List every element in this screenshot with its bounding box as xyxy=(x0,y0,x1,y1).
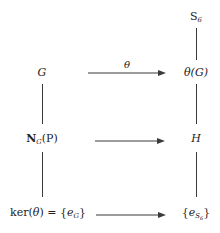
edge-h-to-identity xyxy=(196,152,197,197)
arrow-ng-p-to-h xyxy=(95,136,165,146)
node-trivial-subgroup-s6: {eS6} xyxy=(182,207,210,218)
node-normalizer-ng-p: NG(P) xyxy=(26,133,58,144)
node-symmetric-group-s6: S6 xyxy=(190,11,202,22)
node-label-ker: ker( xyxy=(10,206,33,219)
node-label-trivial-open: { xyxy=(182,206,189,219)
node-label-normalizer-paren-p: (P) xyxy=(42,132,58,145)
node-label-normalizer-subscript-g: G xyxy=(36,138,41,146)
arrow-kernel-to-identity xyxy=(96,210,166,220)
node-label-identity-subscript-g: G xyxy=(73,212,78,220)
edge-ng-p-to-kernel xyxy=(42,152,43,197)
node-label-h: H xyxy=(191,132,201,145)
node-kernel-of-theta: ker(θ) = {eG} xyxy=(10,207,86,218)
commutative-diagram: S6 G θ(G) θ NG(P) H ker(θ) = {eG} {eS6} xyxy=(0,0,220,233)
node-theta-image-of-g: θ(G) xyxy=(184,67,208,78)
node-label-trivial-subscript-s6: S6 xyxy=(195,212,203,220)
node-label-ker-eq: ) = { xyxy=(39,206,67,219)
node-label-theta-g: θ(G) xyxy=(184,66,208,79)
node-label-trivial-e: e xyxy=(189,206,196,219)
node-label-normalizer-n: N xyxy=(26,132,36,145)
arrow-g-to-theta-g xyxy=(88,68,166,78)
node-label-g: G xyxy=(38,66,47,79)
node-label-ker-close: } xyxy=(79,206,86,219)
node-group-g: G xyxy=(38,67,47,78)
edge-s6-to-theta-g xyxy=(196,28,197,60)
edge-g-to-ng-p xyxy=(42,84,43,124)
edge-theta-g-to-h xyxy=(196,84,197,124)
node-label-s6: S6 xyxy=(190,10,202,23)
node-subgroup-h: H xyxy=(191,133,201,144)
node-label-trivial-close: } xyxy=(203,206,210,219)
